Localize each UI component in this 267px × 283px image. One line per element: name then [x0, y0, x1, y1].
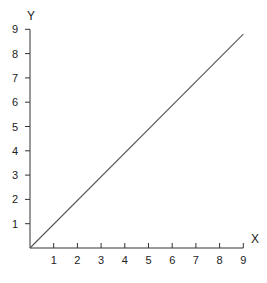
x-tick-label: 1 [51, 254, 57, 266]
y-tick-label: 7 [12, 72, 18, 84]
x-tick-label: 3 [98, 254, 104, 266]
y-tick-label: 4 [12, 145, 18, 157]
y-tick-label: 3 [12, 169, 18, 181]
y-axis-title: Y [27, 9, 35, 23]
line-chart: 123456789123456789 X Y [0, 0, 267, 283]
data-line [30, 34, 243, 248]
x-axis-title: X [251, 232, 259, 246]
x-tick-label: 5 [145, 254, 151, 266]
x-tick-label: 9 [240, 254, 246, 266]
x-tick-label: 7 [193, 254, 199, 266]
data-series [30, 34, 243, 248]
y-tick-label: 5 [12, 121, 18, 133]
ticks: 123456789123456789 [12, 23, 246, 266]
x-tick-label: 4 [122, 254, 128, 266]
y-tick-label: 1 [12, 218, 18, 230]
y-tick-label: 9 [12, 23, 18, 35]
y-tick-label: 8 [12, 48, 18, 60]
x-tick-label: 6 [169, 254, 175, 266]
y-tick-label: 2 [12, 193, 18, 205]
y-tick-label: 6 [12, 96, 18, 108]
x-tick-label: 8 [217, 254, 223, 266]
x-tick-label: 2 [74, 254, 80, 266]
